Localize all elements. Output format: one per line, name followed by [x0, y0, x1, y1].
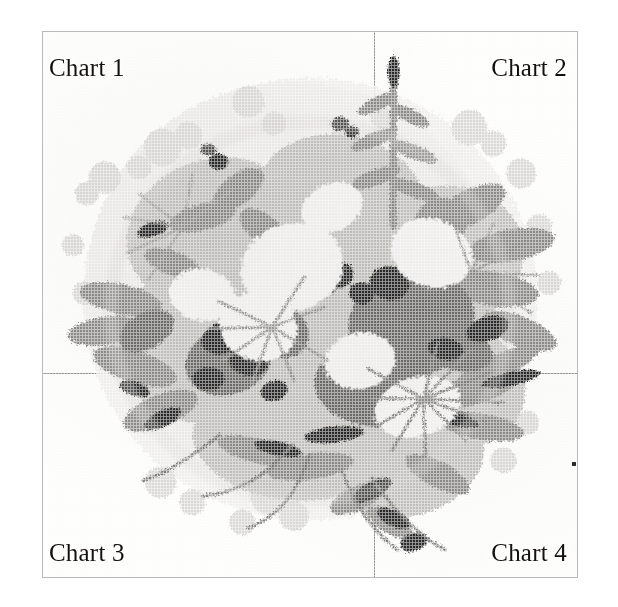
- scan-speck: [572, 462, 576, 466]
- chart-sheet: Chart 1 Chart 2 Chart 3 Chart 4: [42, 31, 578, 578]
- chart-label-4: Chart 4: [491, 540, 567, 565]
- bouquet-artwork: [43, 32, 577, 577]
- page-canvas: Chart 1 Chart 2 Chart 3 Chart 4: [0, 0, 618, 607]
- chart-label-2: Chart 2: [491, 55, 567, 80]
- chart-label-3: Chart 3: [49, 540, 125, 565]
- bouquet-svg: [43, 32, 577, 577]
- chart-label-1: Chart 1: [49, 55, 125, 80]
